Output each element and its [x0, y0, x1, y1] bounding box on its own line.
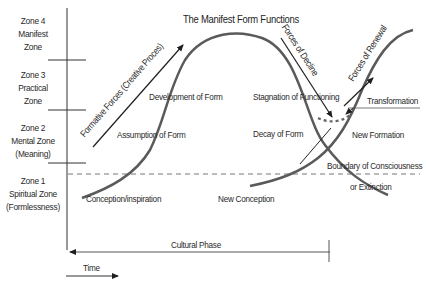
zone-1-line-1: Zone 1 [3, 174, 63, 187]
zone-4-line-3: Zone [6, 40, 61, 53]
zone-1-line-2: Spiritual Zone [3, 187, 63, 200]
diagram-title: The Manifest Form Functions [183, 13, 299, 25]
zone-1-line-3: (Formlessness) [3, 200, 63, 213]
label-decay-of-form: Decay of Form [253, 128, 303, 139]
label-extinction: or Extinction [350, 181, 392, 192]
label-boundary-of-consciousness: Boundary of Consciousness [327, 160, 422, 171]
zone-2-line-3: (Meaning) [6, 147, 61, 160]
main-form-curve [82, 33, 388, 198]
zone-2-line-2: Mental Zone [6, 134, 61, 147]
label-stagnation: Stagnation of Functioning [253, 91, 339, 102]
label-transformation: Transformation [367, 95, 418, 106]
zone-3-line-3: Zone [6, 94, 61, 107]
zone-3-line-1: Zone 3 [6, 68, 61, 81]
zone-1-label: Zone 1 Spiritual Zone (Formlessness) [3, 174, 63, 213]
zone-4-label: Zone 4 Manifest Zone [6, 14, 61, 53]
label-assumption-of-form: Assumption of Form [117, 129, 185, 140]
label-new-conception: New Conception [218, 193, 274, 204]
zone-2-label: Zone 2 Mental Zone (Meaning) [6, 121, 61, 160]
label-development-of-form: Development of Form [149, 91, 223, 102]
manifest-form-diagram: Zone 4 Manifest Zone Zone 3 Practical Zo… [0, 0, 426, 287]
label-conception-inspiration: Conception/inspiration [86, 193, 161, 204]
label-time: Time [83, 262, 100, 273]
zone-4-line-2: Manifest [6, 27, 61, 40]
zone-3-line-2: Practical [6, 81, 61, 94]
label-cultural-phase: Cultural Phase [171, 239, 221, 250]
label-new-formation: New Formation [352, 129, 404, 140]
zone-2-line-1: Zone 2 [6, 121, 61, 134]
zone-3-label: Zone 3 Practical Zone [6, 68, 61, 107]
zone-4-line-1: Zone 4 [6, 14, 61, 27]
